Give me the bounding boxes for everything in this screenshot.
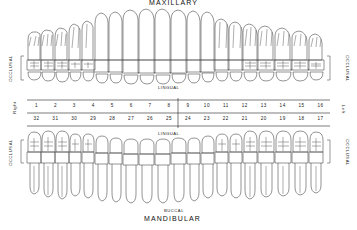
tooth-number-31[interactable]: 31 — [46, 116, 65, 121]
tooth-number-23[interactable]: 23 — [197, 116, 216, 121]
tooth-number-7[interactable]: 7 — [141, 103, 160, 108]
maxillary-lingual-row — [28, 72, 323, 84]
tooth-number-10[interactable]: 10 — [197, 103, 216, 108]
label-occlusal-upper-left: OCCLUSAL — [8, 52, 13, 86]
tooth-number-6[interactable]: 6 — [122, 103, 141, 108]
tooth-number-27[interactable]: 27 — [122, 116, 141, 121]
tooth-number-26[interactable]: 26 — [141, 116, 160, 121]
tooth-number-19[interactable]: 19 — [273, 116, 292, 121]
mandibular-crown-band — [27, 152, 323, 165]
dental-chart: MAXILLARY OCCLUSAL OCCLUSAL OCCLUSAL OCC… — [0, 0, 357, 230]
tooth-number-20[interactable]: 20 — [254, 116, 273, 121]
maxillary-occlusal-surfaces — [30, 61, 321, 69]
label-lingual-maxillary: LINGUAL — [158, 85, 179, 90]
page-title-maxillary: MAXILLARY — [149, 0, 198, 6]
maxillary-left-incisors-canine — [138, 9, 215, 73]
maxillary-right-canine-incisors — [94, 10, 139, 73]
tooth-number-5[interactable]: 5 — [103, 103, 122, 108]
label-side-right: Right — [12, 97, 17, 119]
label-side-left: Left — [341, 100, 346, 120]
label-buccal: BUCCAL — [164, 208, 184, 213]
dental-chart-drawing — [0, 0, 357, 230]
tooth-number-15[interactable]: 15 — [292, 103, 311, 108]
label-occlusal-lower-right: OCCLUSAL — [345, 136, 350, 170]
tooth-number-30[interactable]: 30 — [65, 116, 84, 121]
tooth-number-17[interactable]: 17 — [311, 116, 330, 121]
mandibular-arch — [27, 131, 323, 203]
label-occlusal-lower-left: OCCLUSAL — [8, 136, 13, 170]
tooth-number-21[interactable]: 21 — [235, 116, 254, 121]
maxillary-arch — [27, 9, 324, 84]
tooth-number-22[interactable]: 22 — [216, 116, 235, 121]
tooth-number-24[interactable]: 24 — [179, 116, 198, 121]
maxillary-right-premolars — [68, 21, 95, 70]
tooth-number-3[interactable]: 3 — [65, 103, 84, 108]
tooth-number-25[interactable]: 25 — [160, 116, 179, 121]
maxillary-left-premolars — [214, 19, 243, 70]
mandibular-roots — [30, 163, 321, 203]
tooth-number-2[interactable]: 2 — [46, 103, 65, 108]
tooth-number-13[interactable]: 13 — [254, 103, 273, 108]
page-title-mandibular: MANDIBULAR — [144, 215, 201, 222]
tooth-number-4[interactable]: 4 — [84, 103, 103, 108]
tooth-number-18[interactable]: 18 — [292, 116, 311, 121]
tooth-number-12[interactable]: 12 — [235, 103, 254, 108]
label-occlusal-upper-right: OCCLUSAL — [345, 52, 350, 86]
label-lingual-mandibular: LINGUAL — [158, 131, 179, 136]
tooth-number-29[interactable]: 29 — [84, 116, 103, 121]
tooth-number-28[interactable]: 28 — [103, 116, 122, 121]
tooth-number-1[interactable]: 1 — [27, 103, 46, 108]
tooth-number-8[interactable]: 8 — [160, 103, 179, 108]
tooth-number-16[interactable]: 16 — [311, 103, 330, 108]
tooth-number-14[interactable]: 14 — [273, 103, 292, 108]
tooth-number-32[interactable]: 32 — [27, 116, 46, 121]
tooth-number-9[interactable]: 9 — [179, 103, 198, 108]
tooth-number-11[interactable]: 11 — [216, 103, 235, 108]
